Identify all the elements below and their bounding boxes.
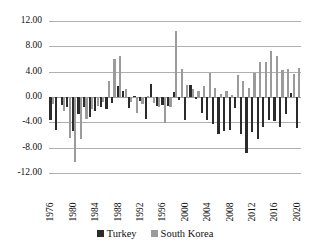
bar-south-korea-2004 — [209, 73, 211, 97]
y-tick-label: 8.00 — [25, 42, 42, 52]
turkey-swatch-icon — [97, 230, 104, 237]
bar-chart: 12.008.004.000.00-4.00-8.00-12.00 197619… — [0, 0, 310, 251]
bar-south-korea-1985 — [102, 97, 104, 102]
y-tick-label: -8.00 — [22, 143, 42, 153]
bar-south-korea-1999 — [181, 69, 183, 97]
bar-turkey-2013 — [257, 97, 259, 139]
bar-south-korea-1992 — [141, 97, 143, 104]
bar-south-korea-2012 — [253, 73, 255, 97]
bar-south-korea-2003 — [203, 86, 205, 97]
bar-south-korea-2011 — [248, 88, 250, 98]
bar-turkey-2004 — [206, 97, 208, 120]
bar-turkey-2006 — [217, 97, 219, 134]
gridline-neg12 — [49, 173, 301, 174]
bar-turkey-2010 — [240, 97, 242, 134]
legend-label: Turkey — [107, 228, 137, 239]
y-tick-label: -12.00 — [17, 168, 42, 178]
bar-south-korea-1980 — [74, 97, 76, 162]
bar-south-korea-2018 — [287, 69, 289, 98]
bar-south-korea-2007 — [225, 91, 227, 97]
chart-legend: TurkeySouth Korea — [0, 228, 310, 239]
x-tick-label: 2008 — [225, 202, 235, 221]
x-tick-label: 2004 — [203, 202, 213, 221]
bar-south-korea-2020 — [298, 68, 300, 97]
bar-south-korea-1994 — [153, 97, 155, 103]
y-tick-label: 4.00 — [25, 67, 42, 77]
plot-area — [49, 21, 301, 173]
bar-south-korea-1987 — [113, 59, 115, 97]
bar-south-korea-1979 — [69, 97, 71, 138]
bar-south-korea-1981 — [80, 97, 82, 139]
bar-turkey-2018 — [285, 97, 287, 114]
gridline-neg8 — [49, 148, 301, 149]
bar-turkey-2000 — [184, 97, 186, 120]
bar-south-korea-2009 — [237, 75, 239, 97]
legend-item-turkey[interactable]: Turkey — [97, 228, 137, 239]
bar-turkey-1977 — [55, 97, 57, 130]
bar-south-korea-2010 — [242, 81, 244, 97]
bar-south-korea-1983 — [91, 97, 93, 109]
bar-turkey-2003 — [201, 97, 203, 113]
bar-turkey-2002 — [195, 97, 197, 99]
bar-turkey-2012 — [251, 97, 253, 132]
bar-south-korea-1984 — [97, 97, 99, 106]
bar-turkey-1999 — [178, 97, 180, 100]
x-tick-label: 1988 — [113, 202, 123, 221]
y-axis: 12.008.004.000.00-4.00-8.00-12.00 — [0, 21, 45, 173]
south-korea-swatch-icon — [151, 230, 158, 237]
bar-south-korea-1976 — [52, 97, 54, 104]
x-tick-label: 2012 — [247, 202, 257, 221]
bar-south-korea-2006 — [220, 94, 222, 97]
bar-turkey-1986 — [105, 97, 107, 109]
bar-south-korea-1989 — [125, 89, 127, 97]
bar-south-korea-1988 — [119, 56, 121, 97]
legend-label: South Korea — [161, 228, 214, 239]
bar-turkey-1994 — [150, 84, 152, 97]
bar-turkey-2014 — [262, 97, 264, 127]
y-tick-label: 12.00 — [21, 16, 42, 26]
x-tick-label: 1992 — [135, 202, 145, 221]
bar-south-korea-1997 — [169, 97, 171, 107]
bar-south-korea-1996 — [164, 97, 166, 123]
bar-turkey-2005 — [212, 97, 214, 124]
x-tick-label: 2000 — [180, 202, 190, 221]
bar-turkey-2011 — [245, 97, 247, 153]
bar-south-korea-2005 — [214, 88, 216, 97]
bar-south-korea-2013 — [259, 62, 261, 97]
bar-turkey-2020 — [296, 97, 298, 128]
bar-south-korea-2000 — [186, 85, 188, 97]
bar-turkey-2017 — [279, 97, 281, 127]
bar-turkey-1987 — [111, 97, 113, 103]
y-tick-label: -4.00 — [22, 118, 42, 128]
bar-turkey-2008 — [229, 97, 231, 130]
bar-south-korea-1995 — [158, 97, 160, 107]
x-tick-label: 1996 — [158, 202, 168, 221]
x-axis: 1976198019841988199219962000200420082012… — [49, 175, 301, 221]
legend-item-south-korea[interactable]: South Korea — [151, 228, 214, 239]
bar-turkey-2015 — [268, 97, 270, 120]
bar-south-korea-1991 — [136, 97, 138, 113]
bar-south-korea-1990 — [130, 97, 132, 102]
bar-turkey-2007 — [223, 97, 225, 131]
y-tick-label: 0.00 — [25, 92, 42, 102]
bar-south-korea-1998 — [175, 31, 177, 97]
bar-south-korea-2019 — [293, 74, 295, 97]
gridline-12 — [49, 21, 301, 22]
x-tick-label: 2016 — [270, 202, 280, 221]
bar-south-korea-2016 — [276, 56, 278, 97]
bar-turkey-2009 — [234, 97, 236, 108]
bar-south-korea-1993 — [147, 96, 149, 97]
bar-south-korea-2008 — [231, 95, 233, 97]
x-tick-label: 1984 — [91, 202, 101, 221]
bar-south-korea-2002 — [197, 91, 199, 97]
bar-south-korea-2014 — [265, 62, 267, 97]
x-tick-label: 1980 — [68, 202, 78, 221]
bar-south-korea-2015 — [270, 51, 272, 97]
bar-south-korea-1986 — [108, 81, 110, 97]
bar-south-korea-2001 — [192, 89, 194, 97]
bar-turkey-1993 — [145, 97, 147, 119]
x-tick-label: 2020 — [292, 202, 302, 221]
bar-turkey-2016 — [273, 97, 275, 121]
x-tick-label: 1976 — [46, 202, 56, 221]
bar-south-korea-2017 — [281, 70, 283, 97]
